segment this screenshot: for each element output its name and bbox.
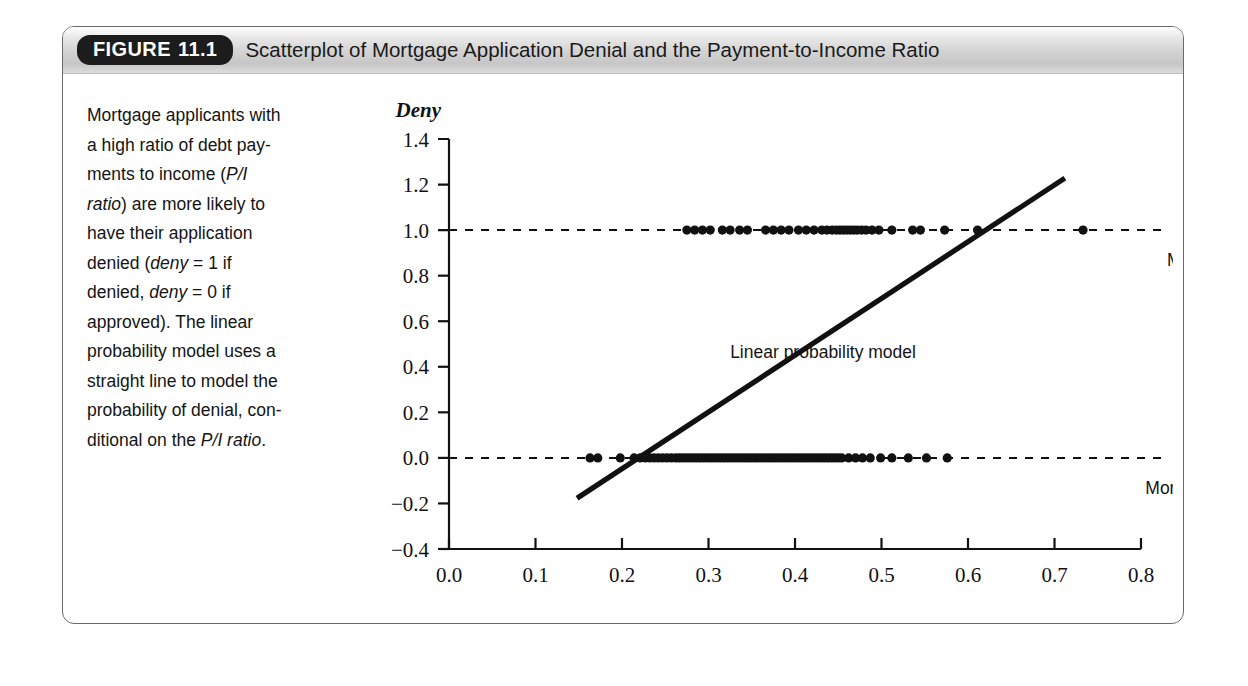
x-axis-tick-label: 0.1 <box>522 563 548 587</box>
caption-line-4-text: ) are more likely to <box>121 194 265 214</box>
caption-line-9: probability model uses a <box>87 341 276 361</box>
x-axis-tick-label: 0.5 <box>868 563 894 587</box>
caption-line-2: a high ratio of debt pay- <box>87 135 271 155</box>
y-axis-tick-label: −0.2 <box>391 492 429 516</box>
x-axis-tick-label: 0.8 <box>1128 563 1154 587</box>
y-axis-tick-label: −0.4 <box>391 538 430 562</box>
figure-page: FIGURE 11.1 Scatterplot of Mortgage Appl… <box>0 0 1248 686</box>
data-point <box>943 453 952 462</box>
figure-caption: Mortgage applicants with a high ratio of… <box>87 101 287 455</box>
caption-line-12-italic: P/I ratio <box>201 430 261 450</box>
data-point <box>874 226 883 235</box>
y-axis-tick-label: 0.2 <box>403 401 429 425</box>
y-axis-tick-label: 1.2 <box>403 173 429 197</box>
caption-line-12-tail: . <box>261 430 266 450</box>
caption-line-7-text: denied, <box>87 282 149 302</box>
mortgage-approved-label: Mortgage approved <box>1145 478 1173 498</box>
x-axis-tick-label: 0.4 <box>782 563 809 587</box>
caption-line-10: straight line to model the <box>87 371 278 391</box>
data-point <box>743 226 752 235</box>
data-point <box>784 226 793 235</box>
data-point <box>973 226 982 235</box>
x-axis-tick-label: 0.2 <box>609 563 635 587</box>
caption-line-3-italic: P/I <box>226 164 247 184</box>
data-point <box>726 226 735 235</box>
y-axis-tick-label: 0.0 <box>403 446 429 470</box>
scatter-plot: Deny1.41.21.00.80.60.40.20.0−0.2−0.40.00… <box>313 87 1173 607</box>
x-axis-tick-label: 0.3 <box>695 563 721 587</box>
data-point <box>593 453 602 462</box>
figure-frame: FIGURE 11.1 Scatterplot of Mortgage Appl… <box>62 26 1184 624</box>
caption-line-3-text: ments to income ( <box>87 164 226 184</box>
data-point <box>887 226 896 235</box>
caption-line-7-italic: deny <box>149 282 187 302</box>
caption-line-11: probability of denial, con- <box>87 400 282 420</box>
data-point <box>904 453 913 462</box>
caption-line-6-italic: deny <box>150 253 188 273</box>
x-axis-title: P/I ratio <box>1067 606 1141 607</box>
x-axis-tick-label: 0.0 <box>436 563 462 587</box>
caption-line-12-text: ditional on the <box>87 430 201 450</box>
chart-canvas: Deny1.41.21.00.80.60.40.20.0−0.2−0.40.00… <box>313 87 1173 607</box>
caption-line-1: Mortgage applicants with <box>87 105 281 125</box>
data-point <box>922 453 931 462</box>
y-axis-tick-label: 1.4 <box>403 128 430 152</box>
figure-label-number: 11.1 <box>178 38 217 61</box>
caption-line-6-text: denied ( <box>87 253 150 273</box>
caption-line-4-italic: ratio <box>87 194 121 214</box>
mortgage-denied-label: Mortgage denied <box>1167 250 1173 270</box>
y-axis-tick-label: 0.6 <box>403 310 429 334</box>
caption-line-7-tail: = 0 if <box>187 282 230 302</box>
caption-line-5: have their application <box>87 223 252 243</box>
data-point <box>1078 226 1087 235</box>
y-axis-tick-label: 1.0 <box>403 219 429 243</box>
data-point <box>887 453 896 462</box>
x-axis-tick-label: 0.7 <box>1041 563 1067 587</box>
data-point <box>916 226 925 235</box>
x-axis-tick-label: 0.6 <box>955 563 981 587</box>
data-point <box>866 453 875 462</box>
series-deny-0 <box>585 453 951 462</box>
caption-line-6-tail: = 1 if <box>188 253 231 273</box>
y-axis-tick-label: 0.4 <box>403 355 430 379</box>
data-point <box>876 453 885 462</box>
data-point <box>616 453 625 462</box>
data-point <box>706 226 715 235</box>
y-axis-tick-label: 0.8 <box>403 264 429 288</box>
linear-probability-model-label: Linear probability model <box>730 342 916 362</box>
figure-header-banner: FIGURE 11.1 Scatterplot of Mortgage Appl… <box>63 27 1183 74</box>
data-point <box>940 226 949 235</box>
figure-label-prefix: FIGURE <box>93 38 171 61</box>
figure-number-badge: FIGURE 11.1 <box>77 35 233 65</box>
caption-line-8: approved). The linear <box>87 312 253 332</box>
y-axis-title: Deny <box>395 98 442 122</box>
figure-title: Scatterplot of Mortgage Application Deni… <box>245 38 939 62</box>
